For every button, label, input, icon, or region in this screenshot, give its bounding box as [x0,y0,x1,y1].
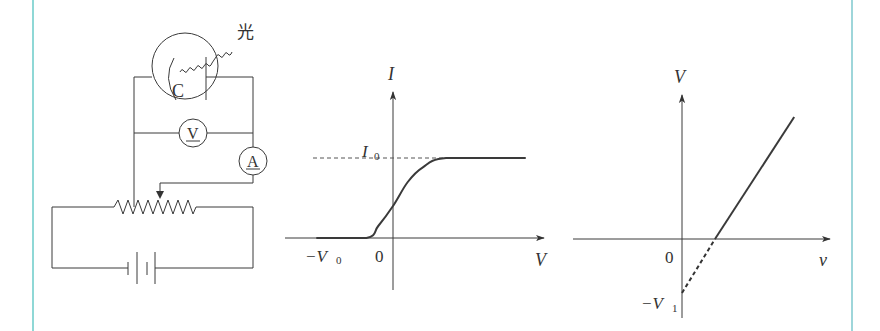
svg-text:0: 0 [374,150,380,162]
wire-right [206,77,253,147]
intercept-label: −V 1 [641,294,678,314]
wire-loop-right [155,207,253,268]
rheostat-zigzag [52,200,253,214]
v-nu-chart: V ν 0 −V 1 [573,67,830,318]
phototube-envelope [152,33,218,99]
voltmeter: V [179,119,207,147]
light-label: 光 [237,22,254,42]
wire-left [134,77,152,207]
svg-text:−V: −V [305,247,329,266]
figure-canvas: C 光 V A [0,0,880,331]
ammeter-label: A [247,153,259,170]
figure-frame: C 光 V A [0,0,880,331]
stopping-voltage-label: −V 0 [305,247,342,266]
svg-text:−V: −V [641,294,665,313]
vnu-extrapolated-line [682,239,715,293]
cathode-label: C [172,81,184,101]
voltmeter-label: V [187,125,199,142]
wire-loop-left [52,207,128,268]
phototube: C [152,33,218,101]
saturation-current-label: I 0 [361,142,380,162]
svg-text:1: 1 [672,302,678,314]
circuit-diagram: C 光 V A [52,22,267,284]
vnu-x-axis-label: ν [819,250,827,270]
ammeter: A [239,147,267,175]
slider-arrow-icon [156,191,164,199]
iv-x-axis-label: V [535,250,548,270]
vnu-y-axis-label: V [674,67,687,87]
battery-icon [128,252,155,284]
vnu-measured-line [715,117,794,239]
slider-wire [160,175,253,193]
iv-curve [316,158,525,238]
iv-chart: I V 0 I 0 −V 0 [285,64,548,290]
svg-text:I: I [361,142,369,161]
iv-origin-label: 0 [375,247,384,266]
iv-y-axis-label: I [387,64,395,84]
svg-text:0: 0 [336,254,342,266]
vnu-origin-label: 0 [665,248,674,267]
